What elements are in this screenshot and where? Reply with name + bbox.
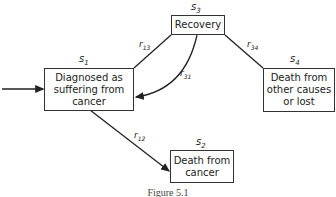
rate-label-r12: r12 bbox=[134, 130, 145, 142]
state-label-s3: s3 bbox=[191, 1, 201, 15]
rate-label-r34: r34 bbox=[247, 39, 258, 51]
state-box-death-other: Death from other causes or lost bbox=[263, 68, 335, 112]
state-label-s1: s1 bbox=[79, 53, 89, 67]
edge-r12 bbox=[90, 110, 169, 171]
state-box-recovery: Recovery bbox=[171, 15, 225, 35]
state-box-diagnosed: Diagnosed as suffering from cancer bbox=[44, 68, 134, 111]
rate-label-r13: r13 bbox=[139, 39, 150, 51]
state-label-s4: s4 bbox=[290, 53, 300, 67]
state-label-s2: s2 bbox=[196, 136, 206, 150]
rate-label-r31: r31 bbox=[180, 68, 191, 80]
state-box-death-cancer: Death from cancer bbox=[170, 150, 234, 183]
figure-caption: Figure 5.1 bbox=[0, 187, 336, 197]
